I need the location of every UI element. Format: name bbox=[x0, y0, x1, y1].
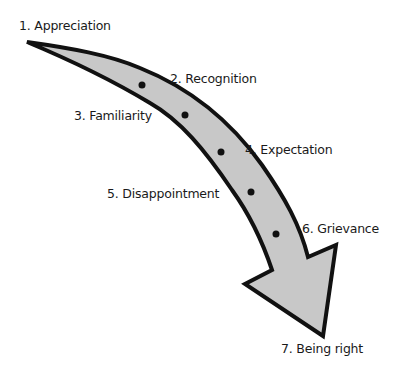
stage-dot-6 bbox=[273, 231, 280, 238]
stage-label-appreciation: 1. Appreciation bbox=[19, 18, 111, 33]
stage-label-disappointment: 5. Disappointment bbox=[107, 186, 219, 201]
stage-label-recognition: 2. Recognition bbox=[170, 71, 257, 86]
stage-label-grievance: 6. Grievance bbox=[302, 221, 379, 236]
stage-label-expectation: 4. Expectation bbox=[245, 142, 332, 157]
stage-dot-3 bbox=[182, 112, 189, 119]
stage-dot-5 bbox=[248, 189, 255, 196]
stage-label-being-right: 7. Being right bbox=[281, 341, 363, 356]
stage-dot-2 bbox=[139, 82, 146, 89]
stage-label-familiarity: 3. Familiarity bbox=[74, 108, 152, 123]
stage-dot-4 bbox=[218, 149, 225, 156]
